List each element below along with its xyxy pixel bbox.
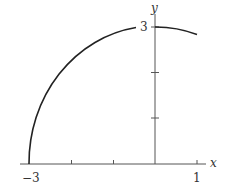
chart: y 3 x −3 1 [0, 0, 230, 189]
x-tick-label-min: −3 [22, 171, 40, 185]
x-tick-label-max: 1 [193, 171, 201, 185]
x-ticks [72, 160, 198, 164]
curve-left-arc [29, 28, 136, 165]
x-axis-label: x [210, 156, 217, 170]
y-tick-label-3: 3 [140, 20, 148, 34]
y-axis-label: y [150, 1, 158, 15]
curve-right-arc [155, 27, 197, 35]
